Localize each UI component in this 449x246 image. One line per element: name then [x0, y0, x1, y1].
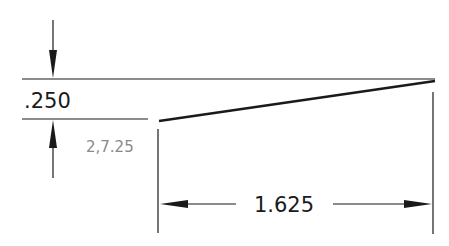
- vertical-dimension-label: .250: [24, 89, 71, 113]
- up-arrow-icon: [49, 120, 57, 178]
- coordinate-note: 2,7.25: [86, 138, 134, 156]
- right-arrow-icon: [333, 200, 432, 208]
- drawing-svg: .250 2,7.25 1.625: [0, 0, 449, 246]
- sloped-object-line: [159, 81, 435, 121]
- down-arrow-icon: [49, 20, 57, 78]
- horizontal-dimension-label: 1.625: [254, 193, 314, 217]
- left-arrow-icon: [160, 200, 236, 208]
- cad-dimension-drawing: .250 2,7.25 1.625: [0, 0, 449, 246]
